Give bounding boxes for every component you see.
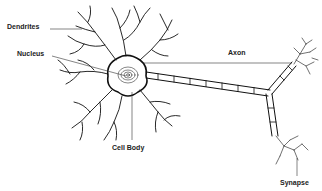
leader-lines: [50, 29, 297, 176]
axon-shape: [146, 62, 296, 136]
label-axon: Axon: [228, 49, 246, 56]
axon-terminal-upper: [294, 38, 318, 74]
label-cell-body: Cell Body: [112, 144, 144, 151]
cell-body-shape: [108, 55, 147, 96]
label-dendrites: Dendrites: [7, 23, 39, 30]
dendrites-shape: [58, 6, 180, 140]
label-synapse: Synapse: [280, 179, 309, 186]
neuron-illustration: [0, 0, 322, 191]
neuron-diagram: Dendrites Nucleus Axon Cell Body Synapse: [0, 0, 322, 191]
label-nucleus: Nucleus: [17, 50, 44, 57]
axon-terminal-lower: [276, 136, 308, 164]
